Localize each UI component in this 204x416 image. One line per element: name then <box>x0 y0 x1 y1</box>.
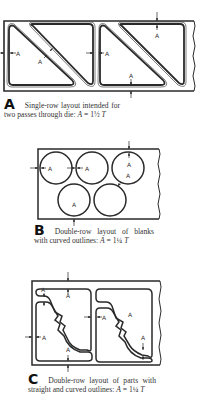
svg-text:A: A <box>16 50 21 57</box>
svg-text:A: A <box>128 311 133 318</box>
caption-c-eq: = 1¼ <box>121 385 140 394</box>
svg-text:A: A <box>66 292 71 299</box>
caption-a: ASingle-row layout intended for two pass… <box>4 100 120 119</box>
svg-text:A: A <box>102 314 107 321</box>
caption-c-unit: T <box>140 385 144 394</box>
caption-a-eq: = 1½ <box>82 110 101 119</box>
panel-b-strip <box>38 149 160 219</box>
svg-text:A: A <box>72 201 77 208</box>
svg-text:A: A <box>38 58 43 65</box>
panel-c-strip <box>32 281 161 365</box>
svg-text:A: A <box>42 334 47 341</box>
caption-b: BDouble-row layout of blanks with curved… <box>34 226 154 245</box>
svg-text:A: A <box>126 172 131 179</box>
panel-c-part-left <box>36 289 92 361</box>
caption-c: CDouble-row layout of parts with straigh… <box>28 375 156 394</box>
svg-text:A: A <box>85 165 90 172</box>
panel-b-dimensions <box>30 141 129 226</box>
svg-text:A: A <box>141 334 146 341</box>
caption-b-eq: = 1¼ <box>105 236 124 245</box>
panel-a-strip <box>4 21 195 91</box>
panel-c-dimension-labels: A A A A A A A <box>41 286 146 353</box>
svg-text:A: A <box>127 161 132 168</box>
panel-c-part-right <box>96 289 152 362</box>
svg-text:A: A <box>105 50 110 57</box>
caption-b-text: Double-row layout of blanks with curved … <box>34 227 154 245</box>
panel-a-triangle-blank-2 <box>29 22 95 86</box>
svg-text:A: A <box>155 32 160 39</box>
svg-text:A: A <box>129 72 134 79</box>
caption-b-unit: T <box>124 236 128 245</box>
svg-text:A: A <box>48 165 53 172</box>
layout-diagrams: A A A A A A A A A A <box>0 0 204 416</box>
caption-a-unit: T <box>102 110 106 119</box>
